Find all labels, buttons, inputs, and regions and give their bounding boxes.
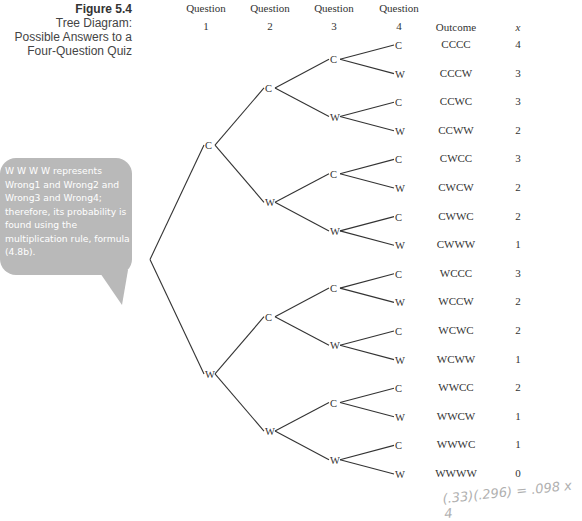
outcome-cell: WCWC bbox=[426, 324, 486, 336]
tree-node-correct: C bbox=[330, 398, 337, 409]
x-value-cell: 2 bbox=[508, 210, 528, 222]
outcome-cell: CCWW bbox=[426, 124, 486, 136]
tree-node-wrong: W bbox=[265, 426, 275, 437]
tree-node-wrong: W bbox=[330, 340, 340, 351]
tree-node-wrong: W bbox=[395, 355, 405, 366]
tree-node-correct: C bbox=[205, 140, 212, 151]
x-value-cell: 3 bbox=[508, 95, 528, 107]
x-value-cell: 3 bbox=[508, 152, 528, 164]
outcome-cell: CWCC bbox=[426, 152, 486, 164]
outcome-cell: CWWW bbox=[426, 238, 486, 250]
tree-node-correct: C bbox=[395, 383, 402, 394]
tree-node-wrong: W bbox=[330, 112, 340, 123]
tree-node-correct: C bbox=[395, 97, 402, 108]
x-value-cell: 0 bbox=[508, 467, 528, 479]
tree-node-correct: C bbox=[395, 212, 402, 223]
outcome-cell: CCWC bbox=[426, 95, 486, 107]
x-value-cell: 1 bbox=[508, 410, 528, 422]
x-value-cell: 2 bbox=[508, 295, 528, 307]
outcome-cell: WWWC bbox=[426, 438, 486, 450]
outcome-cell: CCCW bbox=[426, 67, 486, 79]
outcome-cell: WWWW bbox=[426, 467, 486, 479]
tree-node-correct: C bbox=[395, 269, 402, 280]
outcome-cell: WCCW bbox=[426, 295, 486, 307]
outcome-cell: CWWC bbox=[426, 210, 486, 222]
outcome-cell: CWCW bbox=[426, 181, 486, 193]
tree-node-wrong: W bbox=[330, 226, 340, 237]
x-value-cell: 2 bbox=[508, 324, 528, 336]
outcome-cell: WCWW bbox=[426, 353, 486, 365]
tree-node-wrong: W bbox=[395, 469, 405, 480]
outcome-cell: CCCC bbox=[426, 38, 486, 50]
tree-node-wrong: W bbox=[395, 297, 405, 308]
tree-node-wrong: W bbox=[205, 369, 215, 380]
tree-node-correct: C bbox=[395, 440, 402, 451]
tree-node-correct: C bbox=[330, 283, 337, 294]
x-value-cell: 2 bbox=[508, 181, 528, 193]
x-value-cell: 1 bbox=[508, 353, 528, 365]
tree-node-correct: C bbox=[265, 312, 272, 323]
outcome-cell: WWCC bbox=[426, 381, 486, 393]
tree-node-wrong: W bbox=[395, 69, 405, 80]
tree-node-wrong: W bbox=[395, 126, 405, 137]
x-value-cell: 3 bbox=[508, 67, 528, 79]
tree-node-correct: C bbox=[395, 40, 402, 51]
x-value-cell: 3 bbox=[508, 267, 528, 279]
tree-node-correct: C bbox=[395, 154, 402, 165]
tree-node-correct: C bbox=[395, 326, 402, 337]
tree-node-wrong: W bbox=[395, 412, 405, 423]
x-value-cell: 1 bbox=[508, 238, 528, 250]
x-value-cell: 4 bbox=[508, 38, 528, 50]
outcome-cell: WCCC bbox=[426, 267, 486, 279]
x-value-cell: 1 bbox=[508, 438, 528, 450]
outcome-cell: WWCW bbox=[426, 410, 486, 422]
tree-node-correct: C bbox=[330, 169, 337, 180]
x-value-cell: 2 bbox=[508, 124, 528, 136]
tree-node-correct: C bbox=[330, 54, 337, 65]
tree-node-wrong: W bbox=[265, 197, 275, 208]
tree-node-wrong: W bbox=[395, 183, 405, 194]
tree-node-correct: C bbox=[265, 83, 272, 94]
tree-node-wrong: W bbox=[330, 455, 340, 466]
tree-node-wrong: W bbox=[395, 240, 405, 251]
x-value-cell: 2 bbox=[508, 381, 528, 393]
